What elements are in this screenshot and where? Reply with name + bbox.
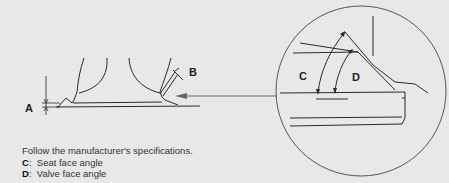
label-c: C — [299, 70, 307, 82]
figure-caption: Follow the manufacturer's specifications… — [22, 145, 193, 180]
caption-key-d: D — [22, 168, 29, 179]
detail-magnifier — [276, 6, 446, 176]
dimension-a — [42, 76, 60, 115]
caption-sep-d: : — [29, 168, 32, 179]
caption-intro: Follow the manufacturer's specifications… — [22, 145, 193, 157]
caption-sep-c: : — [29, 157, 32, 168]
label-b: B — [189, 66, 197, 78]
detail-arrow — [175, 93, 280, 99]
label-a: A — [25, 102, 33, 114]
caption-text-c: Seat face angle — [37, 157, 103, 168]
label-d: D — [352, 71, 360, 83]
caption-key-c: C — [22, 157, 29, 168]
valve-cross-section — [56, 58, 200, 107]
caption-item-c: C: Seat face angle — [22, 157, 193, 169]
caption-item-d: D: Valve face angle — [22, 168, 193, 180]
caption-text-d: Valve face angle — [37, 168, 107, 179]
